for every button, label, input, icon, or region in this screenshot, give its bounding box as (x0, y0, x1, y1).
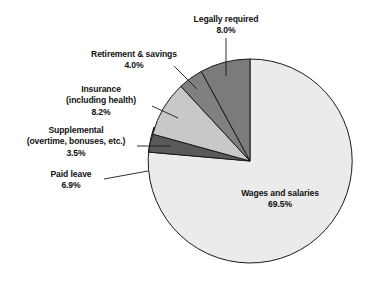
callout-insurance-sublabel: (including health) (52, 95, 150, 106)
callout-legally-required-label: Legally required (168, 14, 284, 25)
callout-insurance-label: Insurance (52, 84, 150, 95)
pie-chart: Legally required 8.0% Retirement & savin… (0, 0, 377, 289)
callout-insurance: Insurance (including health) 8.2% (52, 84, 150, 118)
callout-retirement-and-savings-value: 4.0% (72, 60, 196, 71)
callout-supplemental-sublabel: (overtime, bonuses, etc.) (16, 136, 136, 147)
callout-retirement-and-savings: Retirement & savings 4.0% (72, 49, 196, 72)
callout-paid-leave: Paid leave 6.9% (38, 169, 104, 192)
callout-legally-required: Legally required 8.0% (168, 14, 284, 37)
callout-legally-required-value: 8.0% (168, 25, 284, 36)
callout-paid-leave-value: 6.9% (38, 180, 104, 191)
callout-retirement-and-savings-label: Retirement & savings (72, 49, 196, 60)
leader-line-paid-leave (104, 171, 148, 179)
callout-supplemental: Supplemental (overtime, bonuses, etc.) 3… (16, 125, 136, 159)
callout-supplemental-label: Supplemental (16, 125, 136, 136)
slice-label-wages-and-salaries-label: Wages and salaries (218, 188, 342, 199)
slice-label-wages-and-salaries-value: 69.5% (218, 199, 342, 210)
slice-label-wages-and-salaries: Wages and salaries 69.5% (218, 188, 342, 211)
callout-paid-leave-label: Paid leave (38, 169, 104, 180)
callout-insurance-value: 8.2% (52, 107, 150, 118)
callout-supplemental-value: 3.5% (16, 148, 136, 159)
